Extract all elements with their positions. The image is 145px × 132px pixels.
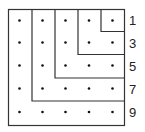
label-5: 5 <box>129 60 136 73</box>
label-1: 1 <box>129 14 136 27</box>
odd-number-gnomon-diagram <box>0 0 145 132</box>
outer-border <box>9 10 125 126</box>
label-7: 7 <box>129 83 136 96</box>
label-3: 3 <box>129 37 136 50</box>
label-9: 9 <box>129 106 136 119</box>
